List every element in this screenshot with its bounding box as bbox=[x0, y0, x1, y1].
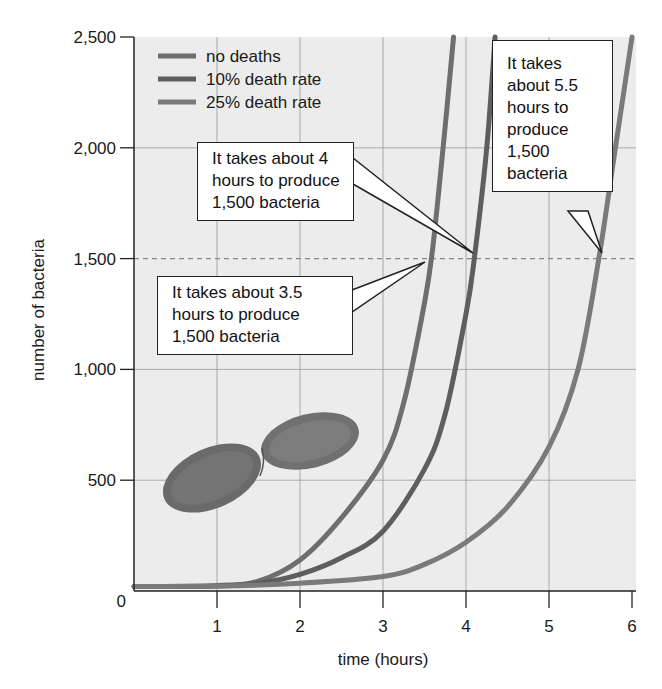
x-tick-label: 6 bbox=[627, 617, 636, 636]
x-tick-label: 1 bbox=[212, 617, 221, 636]
x-axis-ticks: 123456 bbox=[212, 591, 636, 636]
legend-label-no-deaths: no deaths bbox=[206, 47, 281, 66]
y-axis-label: number of bacteria bbox=[29, 239, 48, 381]
callout-line: bacteria bbox=[507, 163, 598, 185]
callout-5-5-hours: It takes about 5.5 hours to produce 1,50… bbox=[492, 40, 613, 192]
callout-line: about 5.5 bbox=[507, 75, 598, 97]
x-tick-label: 3 bbox=[378, 617, 387, 636]
callout-line: produce bbox=[507, 119, 598, 141]
callout-line: 1,500 bacteria bbox=[172, 326, 338, 348]
callout-line: hours to bbox=[507, 97, 598, 119]
callout-line: 1,500 bbox=[507, 141, 598, 163]
callout-line: hours to produce bbox=[172, 304, 338, 326]
x-tick-label: 5 bbox=[544, 617, 553, 636]
y-axis-ticks: 05001,0001,5002,0002,500 bbox=[73, 28, 134, 611]
x-axis-label: time (hours) bbox=[338, 650, 429, 669]
callout-line: hours to produce bbox=[212, 170, 339, 192]
callout-line: It takes about 3.5 bbox=[172, 282, 338, 304]
y-tick-label: 2,500 bbox=[73, 28, 116, 47]
x-tick-label: 4 bbox=[461, 617, 470, 636]
callout-3-5-hours: It takes about 3.5 hours to produce 1,50… bbox=[157, 276, 353, 355]
legend-label-25pct: 25% death rate bbox=[206, 93, 321, 112]
y-tick-label: 2,000 bbox=[73, 139, 116, 158]
y-tick-label: 500 bbox=[88, 471, 116, 490]
y-tick-label: 1,000 bbox=[73, 360, 116, 379]
callout-line: It takes bbox=[507, 53, 598, 75]
y-tick-label: 1,500 bbox=[73, 250, 116, 269]
legend-label-10pct: 10% death rate bbox=[206, 70, 321, 89]
callout-line: It takes about 4 bbox=[212, 148, 339, 170]
callout-line: 1,500 bacteria bbox=[212, 192, 339, 214]
y-tick-label: 0 bbox=[117, 592, 126, 611]
callout-4-hours: It takes about 4 hours to produce 1,500 … bbox=[197, 142, 354, 221]
x-tick-label: 2 bbox=[295, 617, 304, 636]
